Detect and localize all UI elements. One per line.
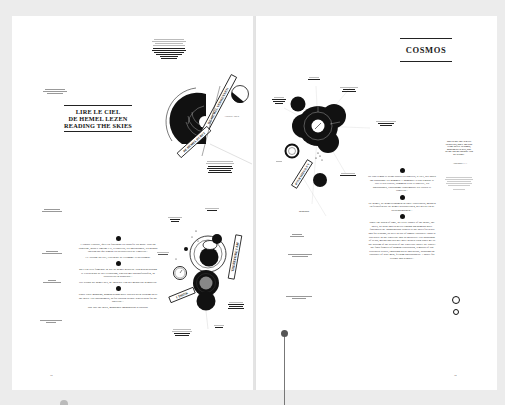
- diagram-caption-top: [152, 38, 186, 60]
- diagram-caption-bottom: [206, 160, 234, 174]
- right-body-column: De tout temps et avant toutes les lunett…: [368, 168, 436, 260]
- diagram2-small-caption: [214, 324, 224, 329]
- small-caption: [205, 207, 219, 212]
- section-bullet-r3: [400, 214, 405, 219]
- left-page: LIRE LE CIEL DE HEMEL LEZEN READING THE …: [12, 16, 255, 390]
- paragraph-nl: Met een zeer filmende in wie de hemel ge…: [78, 268, 158, 279]
- cosmos-caption-5: [340, 172, 356, 177]
- paragraph-nl-right: De hemel, de hemellichamen en onze voorv…: [368, 202, 436, 213]
- cosmos-title-block: COSMOS: [400, 38, 452, 62]
- title-line-en: READING THE SKIES: [56, 122, 140, 129]
- quote-text: THE STARS ARE ALWAYS CONSTANT, THEY ARE …: [445, 140, 473, 156]
- cosmos-caption-bottom: NEWTON: [296, 210, 312, 213]
- paragraph-nl-footer: Het avond die hemel ster, de ontdekte va…: [78, 281, 158, 285]
- section-bullet-r2: [400, 195, 405, 200]
- right-margin-note-2: [288, 253, 312, 258]
- paragraph-fr-footer: Le Voyage du ciel, l'aventure de l'Homme…: [78, 256, 158, 260]
- diagram2-left-caption: [157, 251, 169, 256]
- right-page: COSMOS: [255, 16, 497, 390]
- title-line-nl: DE HEMEL LEZEN: [56, 115, 140, 122]
- diagram2-bottom-caption: [172, 328, 192, 337]
- cosmos-rule-top: [400, 38, 452, 39]
- book-spread: LIRE LE CIEL DE HEMEL LEZEN READING THE …: [12, 16, 496, 390]
- margin-note-1: [42, 208, 62, 213]
- cosmos-title: COSMOS: [400, 45, 452, 55]
- section-bullet-r1: [400, 168, 405, 173]
- pin-marker-icon: [281, 330, 288, 337]
- quote-attribution: Anonymous 1.1.1: [448, 162, 472, 165]
- cosmos-caption-3: [272, 96, 286, 105]
- title-rule-bottom: [64, 131, 132, 132]
- paragraph-fr: L'espace exploré, qu'il est fascinant le…: [78, 243, 158, 254]
- cogito-diagram: THEREFORE I AM I THINK: [162, 221, 252, 331]
- diagram2-top-caption: [168, 216, 182, 223]
- right-margin-note-3: [286, 295, 312, 300]
- cosmos-rule-bottom: [400, 61, 452, 62]
- pin-line: [284, 334, 285, 405]
- paragraph-en-footer: Just like the skies, mankind's imaginati…: [78, 306, 158, 310]
- paragraph-fr-right: De tout temps et avant toutes les lunett…: [368, 175, 436, 193]
- ring-icon-small: [453, 309, 459, 315]
- page-title: LIRE LE CIEL DE HEMEL LEZEN READING THE …: [56, 105, 140, 132]
- page-number-right: 19: [454, 374, 457, 377]
- svg-text:POUR MIEUX S'Y: POUR MIEUX S'Y: [294, 162, 311, 186]
- section-bullet-3: [116, 286, 121, 291]
- diagram2-right-caption: [228, 301, 244, 310]
- margin-note-3: [42, 279, 62, 284]
- quote-translation: [445, 176, 473, 191]
- left-body-column: L'espace exploré, qu'il est fascinant le…: [78, 236, 158, 310]
- paragraph-en: Since early mankind, human beings have a…: [78, 293, 158, 304]
- page-number-left: 18: [50, 374, 53, 377]
- cosmos-caption-1: [308, 76, 320, 81]
- stray-shape: [60, 400, 68, 405]
- right-margin-note-1: [290, 233, 304, 238]
- section-bullet-2: [116, 261, 121, 266]
- cosmos-caption-6: [276, 161, 282, 162]
- section-bullet-1: [116, 236, 121, 241]
- side-caption: [42, 88, 68, 95]
- ring-icon-large: [452, 296, 460, 304]
- margin-note-4: [40, 319, 62, 324]
- title-rule-top: [64, 105, 132, 106]
- cosmos-caption-2: [340, 86, 358, 93]
- diagram-caption-right: Aristotle 350 b.: [216, 115, 248, 118]
- margin-note-2: [42, 250, 62, 255]
- paragraph-en-right: Since the dawn of time, in every corner …: [368, 221, 436, 260]
- gutter: [253, 16, 255, 390]
- cosmos-caption-4: [376, 120, 396, 127]
- title-line-fr: LIRE LE CIEL: [56, 108, 140, 115]
